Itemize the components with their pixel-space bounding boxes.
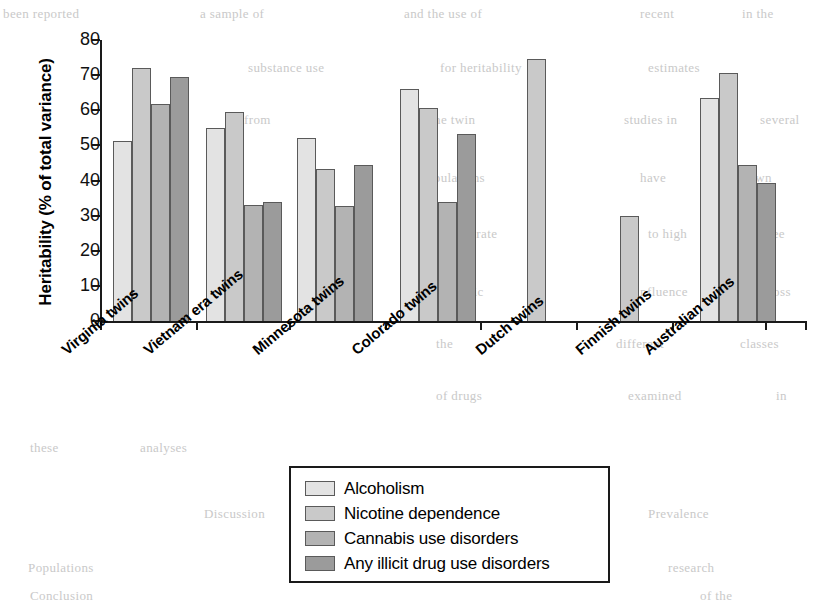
x-axis-line: [100, 321, 806, 323]
bar: [170, 77, 189, 321]
legend-item: Nicotine dependence: [305, 501, 608, 526]
y-axis-tick-label: 70: [66, 65, 100, 83]
x-axis-tick: [196, 321, 198, 330]
y-axis-tick-label: 40: [66, 171, 100, 189]
x-axis-tick: [805, 321, 807, 330]
bar: [335, 206, 354, 321]
bar: [527, 59, 546, 321]
legend-item-label: Alcoholism: [344, 480, 424, 497]
legend-item: Any illicit drug use disorders: [305, 551, 608, 576]
y-axis-tick-label: 20: [66, 241, 100, 259]
legend-swatch-icon: [305, 506, 335, 521]
y-axis-tick-label-wrap: 10: [50, 285, 100, 287]
legend-swatch-icon: [305, 481, 335, 496]
y-axis-tick-label: 10: [66, 276, 100, 294]
x-axis-tick: [765, 321, 767, 330]
y-axis-title: Heritability (% of total variance): [36, 32, 56, 332]
x-axis-tick: [480, 321, 482, 330]
legend-item-label: Cannabis use disorders: [344, 530, 518, 547]
y-axis-tick-label: 60: [66, 100, 100, 118]
x-axis-tick: [576, 321, 578, 330]
chart-legend: AlcoholismNicotine dependenceCannabis us…: [289, 466, 610, 583]
bar: [132, 68, 151, 321]
x-axis-category-label: Dutch twins: [472, 292, 546, 358]
y-axis-tick-label-wrap: 40: [50, 180, 100, 182]
legend-item-label: Any illicit drug use disorders: [344, 555, 550, 572]
legend-swatch-icon: [305, 531, 335, 546]
bar: [244, 205, 263, 321]
y-axis-tick-label-wrap: 20: [50, 250, 100, 252]
y-axis-tick-label-wrap: 60: [50, 109, 100, 111]
bar: [738, 165, 757, 321]
y-axis-tick-label-wrap: 50: [50, 144, 100, 146]
y-axis-line: [100, 40, 102, 323]
legend-swatch-icon: [305, 556, 335, 571]
y-axis-tick-label: 30: [66, 206, 100, 224]
y-axis-tick-label-wrap: 30: [50, 215, 100, 217]
y-axis-tick-label-wrap: 80: [50, 39, 100, 41]
legend-item-label: Nicotine dependence: [344, 505, 500, 522]
bar: [757, 183, 776, 321]
y-axis-tick-label: 50: [66, 135, 100, 153]
bar: [457, 134, 476, 321]
bar: [438, 202, 457, 321]
bar: [151, 104, 170, 321]
legend-item: Cannabis use disorders: [305, 526, 608, 551]
y-axis-tick-label: 80: [66, 30, 100, 48]
y-axis-tick-label-wrap: 70: [50, 74, 100, 76]
legend-item: Alcoholism: [305, 476, 608, 501]
bar: [354, 165, 373, 321]
bar: [263, 202, 282, 321]
